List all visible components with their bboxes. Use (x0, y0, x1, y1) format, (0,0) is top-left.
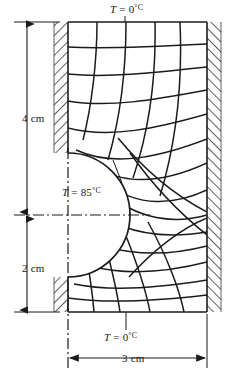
equals-sign: = (113, 331, 119, 343)
curvilinear-square-mesh (68, 22, 207, 312)
temp-value: 85 (81, 186, 92, 198)
label-top-boundary-temperature: T = 0°C (110, 3, 143, 15)
equals-sign: = (71, 186, 77, 198)
isotherm-lines-upper (68, 44, 207, 159)
label-dimension-width: 3 cm (122, 352, 145, 364)
symbol-T: T (104, 331, 110, 343)
figure-canvas: T = 0°C T = 0°C T = 85°C 4 cm 2 cm 3 cm (0, 0, 238, 381)
left-wall-upper-hatch (54, 22, 68, 153)
isotherm-line (74, 280, 207, 288)
flux-line (83, 22, 97, 140)
flux-line (160, 22, 181, 196)
isotherm-line (68, 67, 207, 75)
symbol-T: T (110, 3, 116, 15)
isotherm-line (122, 226, 207, 235)
right-wall-hatch (207, 22, 221, 312)
flux-line (108, 22, 126, 160)
leader-line-cavity-label (113, 160, 122, 183)
degree-celsius-unit: °C (134, 3, 143, 12)
isotherm-line (68, 90, 207, 104)
symbol-T: T (62, 186, 68, 198)
value-and-unit: 85°C (81, 186, 101, 198)
isotherm-line (122, 204, 207, 219)
degree-celsius-unit: °C (92, 186, 101, 195)
degree-celsius-unit: °C (128, 331, 137, 340)
value-and-unit: 0°C (129, 3, 144, 15)
field-lines-mid-upper (88, 138, 207, 235)
label-cavity-surface-temperature: T = 85°C (62, 186, 101, 198)
equals-sign: = (119, 3, 125, 15)
flux-line (129, 218, 207, 277)
isotherm-line (68, 44, 207, 48)
field-lines-mid-lower (90, 218, 207, 277)
left-wall-lower-hatch (54, 277, 68, 312)
isotherm-line (68, 295, 207, 301)
label-dimension-upper-height: 4 cm (22, 112, 45, 124)
value-and-unit: 0°C (123, 331, 138, 343)
label-bottom-boundary-temperature: T = 0°C (104, 331, 137, 343)
flux-plot-drawing (0, 0, 238, 381)
isotherm-lines-lower (68, 280, 207, 301)
label-dimension-lower-height: 2 cm (22, 262, 45, 274)
